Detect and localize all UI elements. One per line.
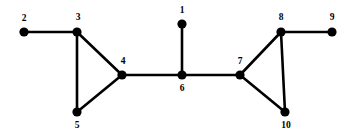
graph-node-label-1: 1 [180,5,185,15]
node-layer [19,19,336,116]
graph-node-label-2: 2 [22,13,27,23]
graph-node-9 [327,27,336,36]
graph-node-label-4: 4 [121,56,126,66]
graph-edge-7-8 [240,32,281,75]
graph-node-1 [177,19,186,28]
graph-edge-7-10 [240,75,285,112]
graph-canvas: 12345678910 [0,0,354,139]
graph-node-label-9: 9 [330,12,335,22]
graph-node-label-5: 5 [75,120,80,130]
graph-node-6 [177,70,186,79]
graph-node-10 [280,107,289,116]
graph-node-label-8: 8 [279,12,284,22]
graph-figure: 12345678910 [0,0,354,139]
graph-node-5 [72,107,81,116]
graph-node-3 [72,27,81,36]
graph-edge-3-4 [77,32,122,75]
graph-node-2 [19,27,28,36]
graph-node-8 [276,27,285,36]
graph-node-label-7: 7 [238,56,243,66]
graph-node-4 [117,70,126,79]
graph-node-label-3: 3 [76,12,81,22]
graph-node-label-6: 6 [180,83,185,93]
graph-node-7 [235,70,244,79]
graph-edge-8-10 [281,32,285,112]
edge-layer [24,24,332,112]
graph-edge-4-5 [77,75,122,112]
graph-node-label-10: 10 [281,120,291,130]
